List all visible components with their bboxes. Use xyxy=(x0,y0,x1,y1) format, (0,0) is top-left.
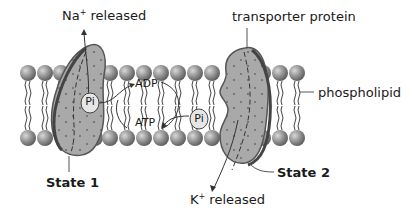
pi-right-label: Pi xyxy=(190,113,208,124)
state2-label: State 2 xyxy=(277,166,330,179)
atp-label: ATP xyxy=(135,117,155,128)
transporter-protein-state2 xyxy=(220,48,270,170)
sodium-released-text: released xyxy=(86,8,146,23)
sodium-released-label: Na+ released xyxy=(62,9,146,22)
sodium-potassium-pump-diagram: Na+ released transporter protein phospho… xyxy=(0,0,414,213)
state2-leader xyxy=(250,164,274,172)
potassium-released-text: released xyxy=(205,192,265,207)
transporter-protein-label: transporter protein xyxy=(232,10,356,23)
sodium-symbol: Na xyxy=(62,8,80,23)
potassium-released-label: K+ released xyxy=(190,193,265,206)
pi-left-label: Pi xyxy=(81,96,99,107)
adp-label: ADP xyxy=(135,78,158,89)
potassium-symbol: K xyxy=(190,192,199,207)
phospholipid-label: phospholipid xyxy=(318,86,401,99)
state1-label: State 1 xyxy=(46,176,99,189)
